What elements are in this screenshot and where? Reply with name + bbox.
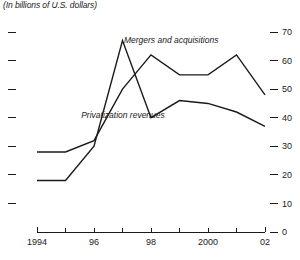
x-tick-label: 1994 — [27, 237, 47, 247]
chart-container: (In billions of U.S. dollars) 0102030405… — [0, 0, 300, 260]
x-tick-label: 98 — [146, 237, 156, 247]
y-tick-label: 10 — [282, 199, 292, 209]
y-tick-label: 20 — [282, 170, 292, 180]
y-axis-left-ticks — [8, 32, 16, 203]
series-label: Mergers and acquisitions — [124, 35, 219, 45]
x-axis: 19949698200002 — [27, 227, 270, 247]
chart-plot: 010203040506070 19949698200002 Mergers a… — [0, 0, 300, 260]
y-tick-label: 50 — [282, 84, 292, 94]
y-tick-label: 0 — [282, 227, 287, 237]
y-axis-right-ticks: 010203040506070 — [270, 27, 292, 237]
y-tick-label: 30 — [282, 141, 292, 151]
series-annotations: Mergers and acquisitionsPrivatization re… — [81, 35, 219, 119]
x-tick-label: 96 — [89, 237, 99, 247]
x-tick-label: 2000 — [198, 237, 218, 247]
y-tick-label: 40 — [282, 113, 292, 123]
y-tick-label: 70 — [282, 27, 292, 37]
y-tick-label: 60 — [282, 56, 292, 66]
series-line — [37, 55, 265, 152]
series-label: Privatization revenues — [81, 110, 165, 120]
x-tick-label: 02 — [260, 237, 270, 247]
